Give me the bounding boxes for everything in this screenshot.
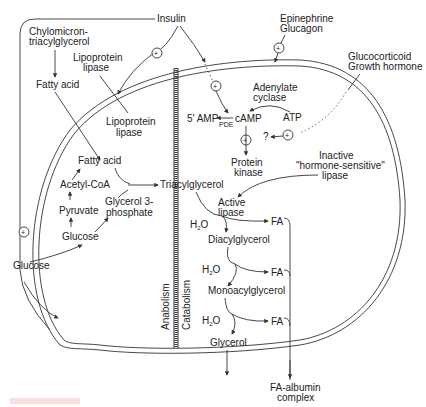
fa-into-cell-arrow: [55, 92, 100, 160]
fa-albumin-label-2: complex: [277, 392, 314, 403]
insulin-to-pde-arrow: [216, 91, 228, 113]
insulin-to-membrane-arrow: [180, 26, 205, 62]
amp-label: 5′ AMP: [187, 113, 219, 124]
fa-label-2: FA: [271, 267, 284, 278]
lpl-outer-label-2: lipase: [83, 62, 110, 73]
fa-label-1: FA: [271, 216, 284, 227]
insulin-label: Insulin: [157, 13, 186, 24]
anabolism-label: Anabolism: [160, 283, 171, 330]
mag-to-glycerol-arrow: [225, 298, 235, 334]
h2o-label-1: H2O: [190, 219, 209, 231]
atp-label: ATP: [283, 112, 302, 123]
fatty-acid-outer-label: Fatty acid: [36, 79, 79, 90]
adenylate-label-2: cyclase: [253, 92, 287, 103]
dag-to-mag-arrow: [227, 247, 236, 286]
svg-text:+: +: [243, 137, 247, 144]
catabolism-label: Catabolism: [181, 280, 192, 330]
growth-hormone-label: Growth hormone: [348, 61, 423, 72]
gh-to-question-arrow: [271, 136, 283, 137]
glucose-inner-label: Glucose: [62, 231, 99, 242]
fa2-arrow: [235, 264, 268, 272]
question-label: ?: [263, 131, 269, 142]
monoacylglycerol-label: Monoacylglycerol: [208, 285, 285, 296]
chylomicron-label-2: triacylglycerol: [29, 36, 90, 47]
svg-text:+: +: [285, 132, 289, 139]
svg-text:+: +: [213, 83, 217, 90]
lpl-inner-label-2: lipase: [116, 127, 143, 138]
svg-text:+: +: [154, 50, 158, 57]
acetyl-coa-label: Acetyl-CoA: [60, 179, 110, 190]
fa3-arrow: [232, 314, 268, 321]
svg-text:+: +: [21, 229, 25, 236]
svg-text:+: +: [276, 45, 280, 52]
pde-label: PDE: [219, 121, 234, 128]
glycerol3p-label-1: Glycerol 3-: [105, 196, 153, 207]
inactive-lipase-label-3: lipase: [322, 170, 349, 181]
glycerol-label: Glycerol: [210, 337, 247, 348]
protein-kinase-label-2: kinase: [234, 167, 263, 178]
glycerol3p-label-2: phosphate: [106, 207, 153, 218]
adipose-metabolism-diagram: Anabolism Catabolism Insulin + + Chylomi…: [0, 0, 426, 407]
lpl-inner-label-1: Lipoprotein: [106, 116, 155, 127]
triacylglycerol-label: Triacylglycerol: [160, 179, 224, 190]
insulin-dotted-path: [205, 64, 214, 84]
epinephrine-plus: +: [274, 43, 284, 53]
glucose-uptake-arrow: [24, 282, 58, 318]
glucose-to-g3p-arrow: [95, 218, 108, 232]
h2o-label-3: H2O: [202, 315, 221, 327]
gh-plus: +: [283, 130, 293, 140]
h2o-label-2: H2O: [202, 264, 221, 276]
diacylglycerol-label: Diacylglycerol: [208, 234, 270, 245]
pyruvate-label: Pyruvate: [59, 205, 99, 216]
figure-label: [10, 398, 80, 404]
fa-collector-line: [284, 218, 290, 380]
insulin-plus-2: +: [211, 81, 221, 91]
activation-arrow: [238, 175, 318, 197]
glucagon-label: Glucagon: [280, 23, 323, 34]
fa-g3p-merge: [115, 168, 130, 198]
gh-dotted-path: [300, 92, 346, 133]
insulin-plus-1: +: [152, 48, 162, 58]
fatty-acid-inner-label: Fatty acid: [78, 155, 121, 166]
fa-label-3: FA: [271, 316, 284, 327]
anabolism-catabolism-divider: [174, 68, 178, 348]
insulin-glucose-plus: +: [19, 227, 29, 237]
insulin-to-lpl-arrow: [118, 26, 178, 94]
camp-label: cAMP: [235, 113, 262, 124]
